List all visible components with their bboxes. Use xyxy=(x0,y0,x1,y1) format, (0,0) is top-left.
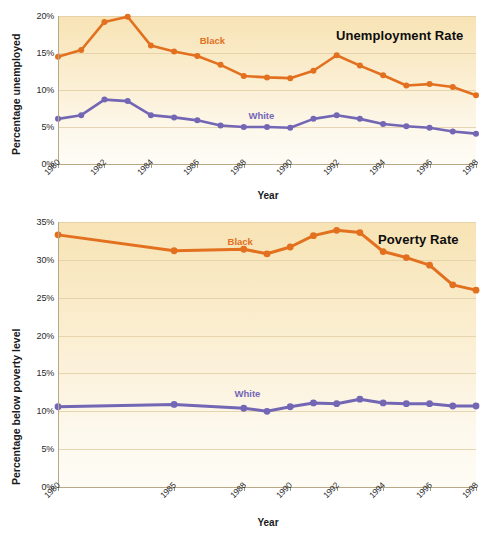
data-point xyxy=(357,63,363,69)
y-tick-label: 5% xyxy=(22,444,54,454)
data-point xyxy=(426,400,433,407)
y-axis-title-unemployment: Percentage unemployed xyxy=(10,34,22,155)
data-point xyxy=(287,403,294,410)
data-point xyxy=(287,75,293,81)
data-point xyxy=(240,405,247,412)
data-point xyxy=(310,116,316,122)
data-point xyxy=(218,123,224,129)
data-point xyxy=(473,403,480,410)
data-point xyxy=(241,124,247,130)
data-point xyxy=(287,125,293,131)
data-point xyxy=(125,14,131,20)
data-point xyxy=(449,281,456,288)
data-point xyxy=(171,114,177,120)
y-tick-label: 30% xyxy=(22,255,54,265)
data-point xyxy=(194,117,200,123)
y-tick-label: 10% xyxy=(22,406,54,416)
data-point xyxy=(264,250,271,257)
data-point xyxy=(333,400,340,407)
y-tick-label: 15% xyxy=(22,48,54,58)
data-point xyxy=(356,229,363,236)
data-point xyxy=(310,232,317,239)
data-point xyxy=(101,19,107,25)
y-axis-title-poverty: Percentage below poverty level xyxy=(10,329,22,485)
data-point xyxy=(427,81,433,87)
data-point xyxy=(403,400,410,407)
data-point xyxy=(78,47,84,53)
data-point xyxy=(334,52,340,58)
data-point xyxy=(334,112,340,118)
y-tick-label: 35% xyxy=(22,217,54,227)
data-point xyxy=(264,408,271,415)
y-axis-line-unemployment xyxy=(58,16,59,164)
series-label-black: Black xyxy=(228,236,253,247)
y-tick-label: 15% xyxy=(22,368,54,378)
y-tick-label: 10% xyxy=(22,85,54,95)
data-point xyxy=(333,227,340,234)
data-point xyxy=(194,53,200,59)
y-tick-label: 20% xyxy=(22,331,54,341)
data-point xyxy=(264,124,270,130)
data-point xyxy=(264,74,270,80)
x-axis-line-poverty xyxy=(58,487,476,488)
data-point xyxy=(380,121,386,127)
data-point xyxy=(241,73,247,79)
data-point xyxy=(125,98,131,104)
data-point xyxy=(450,84,456,90)
data-point xyxy=(287,244,294,251)
series-label-white: White xyxy=(234,388,260,399)
data-point xyxy=(310,400,317,407)
data-point xyxy=(473,131,479,137)
data-point xyxy=(450,128,456,134)
y-axis-line-poverty xyxy=(58,222,59,487)
data-point xyxy=(148,112,154,118)
y-tick-label: 25% xyxy=(22,293,54,303)
series-label-black: Black xyxy=(200,35,225,46)
plot-area-poverty xyxy=(58,222,476,487)
data-point xyxy=(240,246,247,253)
data-point xyxy=(380,400,387,407)
poverty-rate-chart: Percentage below poverty level 0%5%10%15… xyxy=(0,200,489,537)
data-point xyxy=(473,92,479,98)
data-point xyxy=(218,62,224,68)
data-point xyxy=(449,403,456,410)
data-point xyxy=(403,123,409,129)
data-point xyxy=(473,287,480,294)
data-point xyxy=(357,116,363,122)
data-point xyxy=(148,43,154,49)
data-point xyxy=(171,247,178,254)
data-point xyxy=(171,49,177,55)
chart-title-poverty: Poverty Rate xyxy=(378,232,459,247)
unemployment-rate-chart: Percentage unemployed 0%5%10%15%20% 1980… xyxy=(0,0,489,200)
y-tick-label: 5% xyxy=(22,122,54,132)
data-point xyxy=(380,72,386,78)
data-point xyxy=(171,401,178,408)
data-point xyxy=(356,396,363,403)
data-point xyxy=(310,68,316,74)
data-point xyxy=(403,254,410,261)
x-axis-line-unemployment xyxy=(58,164,476,165)
x-axis-title-poverty: Year xyxy=(208,517,328,528)
data-point xyxy=(403,83,409,89)
chart-title-unemployment: Unemployment Rate xyxy=(336,28,463,43)
data-point xyxy=(380,248,387,255)
y-tick-label: 20% xyxy=(22,11,54,21)
series-lines-poverty xyxy=(58,222,476,487)
data-point xyxy=(426,262,433,269)
series-label-white: White xyxy=(248,110,274,121)
data-point xyxy=(78,112,84,118)
data-point xyxy=(101,97,107,103)
data-point xyxy=(427,125,433,131)
